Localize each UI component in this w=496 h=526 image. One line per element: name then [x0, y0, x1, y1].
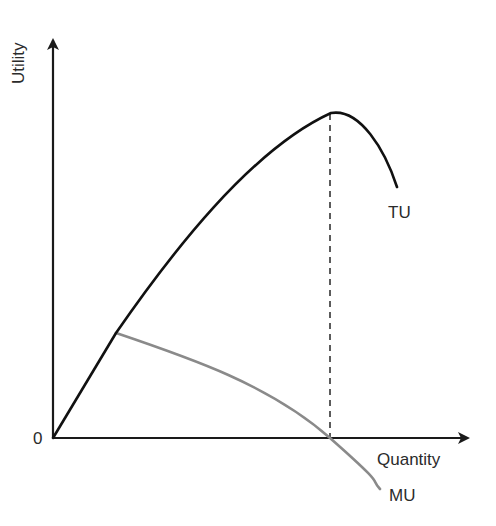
origin-label: 0	[33, 430, 42, 447]
tu-curve-label: TU	[388, 204, 411, 221]
mu-curve	[116, 333, 380, 489]
tu-curve	[53, 113, 397, 438]
x-axis-label: Quantity	[377, 451, 440, 468]
mu-curve-label: MU	[389, 487, 415, 504]
utility-diagram	[0, 0, 496, 526]
y-axis-label: Utility	[8, 24, 30, 84]
